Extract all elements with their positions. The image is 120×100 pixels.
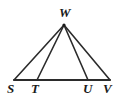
vertex-label-s: S [7,82,14,95]
vertex-point-W [62,23,65,26]
segment-side-W-S [14,25,64,80]
vertex-label-t: T [31,82,39,95]
vertex-label-w: W [59,6,71,19]
segment-side-W-V [64,25,110,80]
geometry-figure: W S T U V [0,0,120,100]
vertex-label-u: U [83,82,92,95]
segment-cevian-W-U [64,25,88,80]
vertex-label-v: V [103,82,112,95]
segment-cevian-W-T [37,25,64,80]
